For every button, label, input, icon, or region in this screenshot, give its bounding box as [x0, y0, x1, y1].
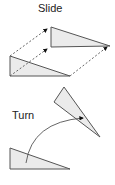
turn-label: Turn [12, 110, 34, 121]
turn-original-triangle [10, 148, 70, 169]
turn-section [10, 87, 100, 169]
slide-arrow-top [10, 29, 47, 56]
slide-arrow-right [70, 47, 107, 76]
transformations-diagram: Slide Turn [0, 0, 115, 185]
slide-section [10, 27, 110, 76]
slide-label: Slide [38, 3, 62, 14]
diagram-svg [0, 0, 115, 185]
slide-moved-triangle [51, 27, 110, 47]
slide-original-triangle [10, 56, 70, 76]
turn-rotated-triangle [54, 87, 100, 137]
